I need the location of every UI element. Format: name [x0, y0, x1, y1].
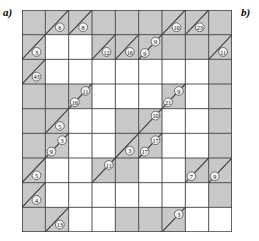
entry-cell[interactable] [69, 158, 92, 183]
clue-value: 3 [35, 49, 38, 56]
entry-cell[interactable] [69, 35, 92, 60]
entry-cell[interactable] [45, 158, 68, 183]
clue-cell [115, 10, 138, 35]
clue-cell [22, 109, 45, 134]
entry-cell[interactable] [162, 133, 185, 158]
clue-cell [209, 59, 232, 84]
clue-cell [139, 207, 162, 232]
clue-cell [115, 109, 138, 134]
clue-cell [209, 183, 232, 208]
entry-cell[interactable] [69, 133, 92, 158]
clue-r7c8-across: 7 [187, 172, 196, 181]
entry-cell[interactable] [69, 59, 92, 84]
entry-cell[interactable] [115, 84, 138, 109]
clue-r3c1-across: 43 [32, 72, 41, 81]
clue-r1c8-down: 23 [195, 23, 204, 32]
clue-cell [139, 10, 162, 35]
entry-cell[interactable] [115, 59, 138, 84]
entry-cell[interactable] [45, 35, 68, 60]
clue-value: 43 [33, 73, 39, 80]
clue-cell [45, 84, 68, 109]
clue-r8c1-across: 4 [32, 196, 41, 205]
clue-r5c2-down: 5 [55, 122, 64, 131]
clue-r5c6-down: 10 [151, 111, 160, 120]
clue-value: 9 [177, 88, 180, 95]
entry-cell[interactable] [185, 133, 208, 158]
clue-value: 12 [103, 49, 109, 56]
entry-cell[interactable] [185, 59, 208, 84]
clue-r7c4-down: 11 [104, 161, 113, 170]
entry-cell[interactable] [162, 183, 185, 208]
clue-value: 3 [177, 211, 180, 218]
entry-cell[interactable] [92, 183, 115, 208]
clue-value: 16 [72, 99, 78, 106]
entry-cell[interactable] [162, 109, 185, 134]
entry-cell[interactable] [92, 59, 115, 84]
clue-value: 23 [197, 24, 203, 31]
clue-value: 5 [35, 172, 38, 179]
clue-cell [209, 84, 232, 109]
clue-r4c3-across: 16 [70, 98, 79, 107]
clue-value: 3 [128, 147, 131, 154]
kakuro-grid-svg[interactable]: 6810233121699114311169215103931717511794… [22, 10, 232, 232]
clue-cell [162, 35, 185, 60]
entry-cell[interactable] [139, 84, 162, 109]
entry-cell[interactable] [185, 84, 208, 109]
clue-value: 16 [127, 49, 133, 56]
clue-value: 11 [106, 162, 112, 169]
entry-cell[interactable] [185, 207, 208, 232]
clue-r6c2-across: 9 [47, 147, 56, 156]
figure-label-a: a) [3, 6, 12, 18]
clue-cell [92, 10, 115, 35]
clue-value: 17 [142, 148, 148, 155]
entry-cell[interactable] [92, 109, 115, 134]
entry-cell[interactable] [185, 109, 208, 134]
entry-cell[interactable] [69, 183, 92, 208]
entry-cell[interactable] [115, 183, 138, 208]
clue-cell [22, 84, 45, 109]
clue-cell [22, 207, 45, 232]
clue-r4c3-down: 11 [81, 87, 90, 96]
entry-cell[interactable] [45, 59, 68, 84]
entry-cell[interactable] [92, 84, 115, 109]
entry-cell[interactable] [139, 183, 162, 208]
entry-cell[interactable] [162, 59, 185, 84]
clue-r7c9-across: 9 [210, 172, 219, 181]
kakuro-grid[interactable]: 6810233121699114311169215103931717511794… [22, 10, 232, 232]
clue-cell [209, 10, 232, 35]
clue-value: 10 [173, 24, 179, 31]
clue-r1c2-down: 6 [55, 23, 64, 32]
clue-value: 10 [152, 112, 158, 119]
clue-value: 6 [58, 24, 61, 31]
entry-cell[interactable] [69, 207, 92, 232]
entry-cell[interactable] [185, 183, 208, 208]
clue-r4c7-across: 21 [164, 98, 173, 107]
clue-r7c1-across: 5 [32, 171, 41, 180]
clue-r2c6-down: 9 [151, 37, 160, 46]
clue-r9c2-down: 13 [55, 220, 64, 229]
clue-value: 8 [82, 24, 85, 31]
clue-cell [185, 35, 208, 60]
clue-cell [115, 207, 138, 232]
puzzle-figure: a) b) 6810233121699114311169215103931717… [0, 0, 259, 241]
clue-cell [22, 133, 45, 158]
entry-cell[interactable] [139, 59, 162, 84]
entry-cell[interactable] [69, 109, 92, 134]
clue-r2c4-across: 12 [102, 48, 111, 57]
entry-cell[interactable] [45, 183, 68, 208]
entry-cell[interactable] [162, 158, 185, 183]
clue-r2c9-across: 11 [219, 48, 228, 57]
clue-cell [209, 109, 232, 134]
entry-cell[interactable] [92, 207, 115, 232]
clue-cell [22, 10, 45, 35]
clue-value: 21 [165, 99, 171, 106]
clue-value: 9 [154, 38, 157, 45]
entry-cell[interactable] [92, 133, 115, 158]
clue-value: 4 [35, 197, 38, 204]
clue-cell [115, 158, 138, 183]
entry-cell[interactable] [139, 158, 162, 183]
clue-value: 17 [152, 137, 158, 144]
clue-r2c6-across: 9 [140, 49, 149, 58]
entry-cell[interactable] [209, 207, 232, 232]
clue-r4c7-down: 9 [174, 87, 183, 96]
